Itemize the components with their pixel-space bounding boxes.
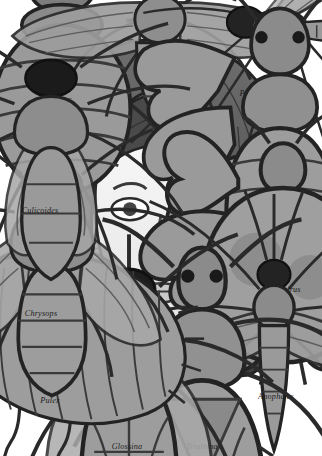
insect-culicoides [0,0,212,394]
label-culicoides: Culicoides [21,206,58,215]
vector-diagram: Cimex Simulium [0,0,322,456]
